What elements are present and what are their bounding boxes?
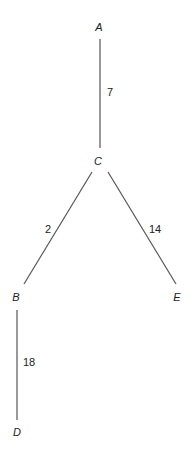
node-b: B: [12, 291, 19, 303]
node-d: D: [13, 426, 21, 438]
edge-weight-c-b: 2: [45, 223, 51, 235]
edge-weights: 7 2 14 18: [23, 86, 161, 368]
edge-weight-c-e: 14: [149, 223, 161, 235]
edge-c-b: [24, 172, 92, 284]
edge-weight-a-c: 7: [107, 86, 113, 98]
edge-c-e: [108, 172, 176, 284]
edge-weight-b-d: 18: [23, 356, 35, 368]
node-a: A: [94, 21, 102, 33]
node-e: E: [173, 291, 181, 303]
node-c: C: [94, 155, 102, 167]
tree-diagram: 7 2 14 18 A C B E D: [0, 0, 193, 460]
